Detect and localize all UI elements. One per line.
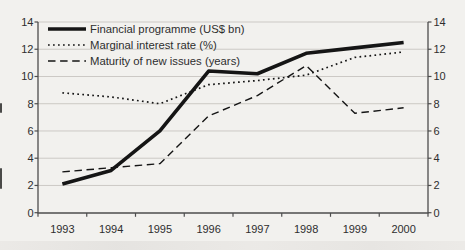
- y-axis-label-right-14: 14: [434, 16, 446, 28]
- y-axis-label-left-8: 8: [27, 98, 33, 110]
- scan-artifact-left-1: [0, 103, 2, 113]
- y-axis-label-right-6: 6: [434, 125, 440, 137]
- scan-artifact-left-2: [0, 168, 2, 189]
- x-axis-label-2000: 2000: [391, 223, 415, 235]
- x-axis-label-1998: 1998: [294, 223, 318, 235]
- x-axis-label-1999: 1999: [343, 223, 367, 235]
- series-line-maturity-new-issues: [62, 66, 403, 172]
- y-axis-label-right-4: 4: [434, 152, 440, 164]
- legend-label-maturity-new-issues: Maturity of new issues (years): [90, 55, 240, 67]
- x-axis-label-1994: 1994: [99, 223, 123, 235]
- y-axis-label-left-12: 12: [21, 43, 33, 55]
- y-axis-label-right-8: 8: [434, 98, 440, 110]
- y-axis-label-right-12: 12: [434, 43, 446, 55]
- y-axis-label-left-2: 2: [27, 179, 33, 191]
- legend-label-financial-programme: Financial programme (US$ bn): [90, 23, 245, 35]
- x-axis-label-1993: 1993: [50, 223, 74, 235]
- y-axis-label-left-10: 10: [21, 70, 33, 82]
- scan-artifact-band: [0, 241, 465, 250]
- x-axis-label-1996: 1996: [196, 223, 220, 235]
- y-axis-label-right-2: 2: [434, 179, 440, 191]
- y-axis-label-left-14: 14: [21, 16, 33, 28]
- y-axis-label-right-0: 0: [434, 207, 440, 219]
- chart-svg: 0022446688101012121414199319941995199619…: [0, 0, 465, 250]
- line-chart-figure: 0022446688101012121414199319941995199619…: [0, 0, 465, 250]
- y-axis-label-left-0: 0: [27, 207, 33, 219]
- y-axis-label-left-4: 4: [27, 152, 33, 164]
- x-axis-label-1997: 1997: [245, 223, 269, 235]
- x-axis-label-1995: 1995: [148, 223, 172, 235]
- y-axis-label-left-6: 6: [27, 125, 33, 137]
- y-axis-label-right-10: 10: [434, 70, 446, 82]
- legend-label-marginal-interest-rate: Marginal interest rate (%): [90, 39, 217, 51]
